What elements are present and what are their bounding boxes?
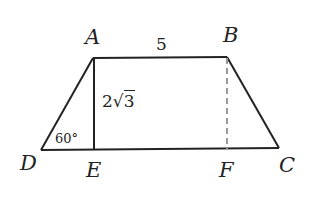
label-c: C	[279, 155, 295, 176]
sqrt-sign: √	[113, 91, 124, 111]
segment-bc	[227, 57, 279, 148]
segment-dc	[41, 148, 279, 150]
segment-ab	[93, 57, 227, 58]
label-a: A	[85, 27, 100, 48]
label-f: F	[219, 160, 234, 181]
label-b: B	[223, 25, 238, 46]
label-e: E	[86, 160, 101, 181]
length-ab: 5	[156, 36, 167, 53]
angle-d: 60°	[55, 132, 78, 145]
height-coef: 2	[102, 91, 113, 111]
height-ae: 2√3	[102, 93, 135, 110]
trapezoid-diagram	[0, 0, 317, 198]
height-radicand: 3	[124, 90, 135, 111]
label-d: D	[20, 153, 37, 174]
